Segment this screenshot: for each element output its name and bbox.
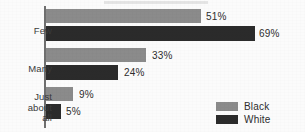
- category-label-many: Many: [28, 64, 52, 75]
- legend-item-black: Black: [216, 100, 271, 112]
- bar-value-many-black: 33%: [152, 50, 173, 61]
- legend-label-black: Black: [244, 101, 269, 112]
- bar-value-just-about-all-black: 9%: [79, 89, 94, 100]
- chart-legend: Black White: [216, 100, 271, 126]
- bar-few-black: [46, 9, 201, 23]
- bar-few-white: [46, 26, 255, 41]
- bar-value-few-white: 69%: [259, 28, 280, 39]
- bar-value-just-about-all-white: 5%: [66, 106, 81, 117]
- bar-chart: Few Many Just about all 51% 69% 33% 24% …: [0, 0, 305, 132]
- bar-many-white: [46, 65, 118, 80]
- bar-many-black: [46, 48, 146, 62]
- category-label-just-about-all: Just about all: [28, 92, 52, 124]
- legend-swatch-white-icon: [216, 115, 238, 124]
- category-label-few: Few: [34, 26, 52, 37]
- legend-swatch-black-icon: [216, 102, 238, 111]
- legend-item-white: White: [216, 113, 271, 125]
- bar-value-many-white: 24%: [124, 67, 145, 78]
- legend-label-white: White: [244, 114, 271, 125]
- scan-artifact-top: [104, 1, 208, 4]
- bar-value-few-black: 51%: [206, 11, 227, 22]
